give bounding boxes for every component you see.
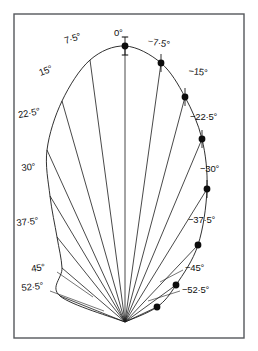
angle-label-pos-6: 52·5°	[21, 281, 44, 293]
ray-15	[62, 101, 125, 322]
data-point-marker	[154, 304, 161, 311]
data-point-marker	[195, 242, 202, 249]
ray-neg30	[125, 189, 207, 322]
angle-label-0: 0°	[114, 28, 123, 38]
angle-label-pos-5: 45°	[31, 262, 46, 273]
polar-diagram-figure: 0°7·5°15°22·5°30°37·5°45°52·5°−7·5°−15°−…	[0, 0, 258, 351]
data-point-marker	[173, 282, 180, 289]
angle-label-neg-3: −30°	[200, 164, 219, 174]
ray-37neg5	[57, 237, 125, 322]
angle-label-pos-4: 37·5°	[16, 216, 39, 228]
ray-45	[62, 268, 125, 322]
ray-group	[47, 46, 207, 322]
data-point-marker	[122, 43, 129, 50]
data-point-marker	[204, 186, 211, 193]
angle-label-pos-3: 30°	[21, 162, 36, 173]
angle-label-neg-5: −45°	[185, 263, 204, 273]
angle-label-neg-2: −22·5°	[190, 112, 217, 122]
data-point-marker	[182, 94, 189, 101]
data-point-marker	[158, 60, 165, 67]
angle-label-neg-1: −15°	[188, 66, 208, 77]
leader-52-5	[50, 291, 104, 311]
angle-label-neg-6: −52·5°	[182, 285, 209, 295]
angle-label-neg-4: −37·5°	[188, 215, 215, 225]
data-point-marker	[199, 136, 206, 143]
polar-diagram-canvas	[0, 0, 258, 351]
leader-line-group	[50, 270, 183, 311]
ray-neg7-5	[125, 63, 161, 322]
